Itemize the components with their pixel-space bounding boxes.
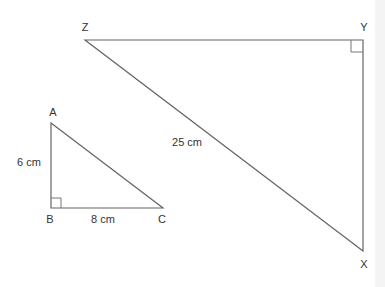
vertex-label-y: Y xyxy=(360,21,368,33)
right-angle-marker-b xyxy=(51,198,61,208)
triangle-abc: A B C 6 cm 8 cm xyxy=(17,106,166,225)
triangle-xyz-outline xyxy=(85,40,363,251)
vertex-label-b: B xyxy=(46,213,53,225)
vertex-label-x: X xyxy=(360,258,368,270)
side-label-bc: 8 cm xyxy=(91,213,115,225)
triangles-figure: Z Y X 25 cm A B C 6 cm 8 cm xyxy=(0,0,385,287)
side-label-ab: 6 cm xyxy=(17,156,41,168)
triangle-abc-outline xyxy=(51,123,163,208)
vertex-label-z: Z xyxy=(82,21,89,33)
vertex-label-c: C xyxy=(158,213,166,225)
vertex-label-a: A xyxy=(49,106,57,118)
triangle-xyz: Z Y X 25 cm xyxy=(82,21,369,270)
side-label-zx: 25 cm xyxy=(172,136,202,148)
diagram-canvas: Z Y X 25 cm A B C 6 cm 8 cm xyxy=(0,0,385,287)
right-angle-marker-y xyxy=(351,40,363,52)
